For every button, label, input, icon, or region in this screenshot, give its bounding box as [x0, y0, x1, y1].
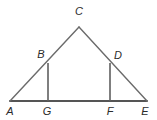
vertex-label-F: F	[107, 106, 114, 117]
vertex-label-B: B	[37, 49, 44, 60]
vertex-label-C: C	[75, 6, 83, 17]
geometry-canvas	[0, 0, 157, 120]
vertex-label-G: G	[43, 106, 52, 117]
vertex-label-E: E	[141, 106, 148, 117]
segment-CE	[79, 27, 147, 101]
vertex-label-D: D	[114, 50, 122, 61]
vertex-label-A: A	[6, 106, 13, 117]
geometry-figure: C B D A G F E	[0, 0, 157, 120]
segment-AC	[10, 27, 79, 101]
